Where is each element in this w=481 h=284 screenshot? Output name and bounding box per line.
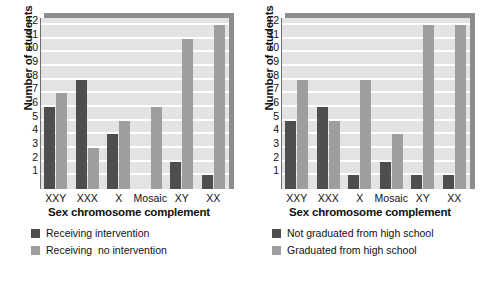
bar-group bbox=[170, 18, 193, 189]
legend-swatch-icon bbox=[272, 229, 281, 238]
y-tick-label: 5 bbox=[32, 111, 38, 121]
legend-swatch-icon bbox=[31, 229, 40, 238]
y-tick-label: 10 bbox=[26, 42, 38, 52]
x-tick-label: Mosaic bbox=[134, 192, 167, 204]
legend-right: Not graduated from high school Graduated… bbox=[272, 228, 434, 262]
bar bbox=[56, 93, 67, 189]
bar-series-right bbox=[281, 18, 470, 189]
x-tick-label: XX bbox=[447, 192, 461, 204]
bar-group bbox=[317, 18, 340, 189]
bar bbox=[329, 121, 340, 189]
bar bbox=[285, 121, 296, 189]
x-tick-label: X bbox=[356, 192, 363, 204]
y-tick-label: 2 bbox=[32, 152, 38, 162]
plot-right-shadow bbox=[229, 13, 234, 189]
bar-group bbox=[202, 18, 225, 189]
legend-item: Graduated from high school bbox=[272, 245, 434, 256]
y-tick-label: 11 bbox=[27, 29, 38, 39]
bar bbox=[107, 134, 118, 189]
bar bbox=[423, 25, 434, 189]
y-axis-ticks-right: 123456789101112 bbox=[259, 18, 279, 189]
bar bbox=[392, 134, 403, 189]
y-axis-ticks-left: 123456789101112 bbox=[18, 18, 38, 189]
bar bbox=[170, 162, 181, 189]
legend-item: Receiving intervention bbox=[31, 228, 167, 239]
bar bbox=[443, 175, 454, 189]
y-tick-label: 6 bbox=[32, 97, 38, 107]
bar bbox=[348, 175, 359, 189]
bar bbox=[88, 148, 99, 189]
y-tick-label: 11 bbox=[268, 29, 279, 39]
y-tick-label: 1 bbox=[273, 165, 279, 175]
bar-group bbox=[107, 18, 130, 189]
x-axis-ticks-left: XXYXXXXMosaicXYXX bbox=[40, 192, 229, 206]
bar-group bbox=[76, 18, 99, 189]
y-tick-label: 3 bbox=[32, 138, 38, 148]
y-tick-label: 4 bbox=[273, 124, 279, 134]
x-tick-label: XY bbox=[175, 192, 189, 204]
legend-swatch-icon bbox=[272, 246, 281, 255]
bar bbox=[411, 175, 422, 189]
x-axis-title-left: Sex chromosome complement bbox=[24, 206, 234, 218]
y-tick-label: 4 bbox=[32, 124, 38, 134]
bar bbox=[202, 175, 213, 189]
bar-group bbox=[285, 18, 308, 189]
chart-panel-right: Number of students 123456789101112 XXYXX… bbox=[241, 0, 481, 284]
bar-series-left bbox=[40, 18, 229, 189]
x-tick-label: XY bbox=[416, 192, 430, 204]
bar bbox=[360, 80, 371, 189]
legend-item: Receiving no intervention bbox=[31, 245, 167, 256]
legend-left: Receiving intervention Receiving no inte… bbox=[31, 228, 167, 262]
x-tick-label: XX bbox=[206, 192, 220, 204]
x-tick-label: XXY bbox=[286, 192, 307, 204]
x-axis-ticks-right: XXYXXXXMosaicXYXX bbox=[281, 192, 470, 206]
x-tick-label: XXY bbox=[45, 192, 66, 204]
y-tick-label: 7 bbox=[32, 83, 38, 93]
y-tick-label: 1 bbox=[32, 165, 38, 175]
bar bbox=[214, 25, 225, 189]
y-tick-label: 10 bbox=[267, 42, 279, 52]
y-tick-label: 7 bbox=[273, 83, 279, 93]
y-tick-label: 9 bbox=[32, 56, 38, 66]
y-tick-label: 2 bbox=[273, 152, 279, 162]
legend-label: Graduated from high school bbox=[287, 245, 417, 256]
legend-swatch-icon bbox=[31, 246, 40, 255]
x-tick-label: XXX bbox=[77, 192, 98, 204]
bar-group bbox=[44, 18, 67, 189]
figure-two-panel-bar-charts: Number of students 123456789101112 XXYXX… bbox=[0, 0, 481, 284]
bar-group bbox=[139, 18, 162, 189]
y-tick-label: 5 bbox=[273, 111, 279, 121]
y-tick-label: 12 bbox=[26, 15, 38, 25]
y-tick-label: 8 bbox=[273, 70, 279, 80]
plot-area-right bbox=[281, 13, 475, 189]
bar bbox=[76, 80, 87, 189]
plot-area-left bbox=[40, 13, 234, 189]
legend-item: Not graduated from high school bbox=[272, 228, 434, 239]
legend-label: Not graduated from high school bbox=[287, 228, 434, 239]
legend-label: Receiving no intervention bbox=[46, 245, 167, 256]
plot-right-shadow bbox=[470, 13, 475, 189]
bar bbox=[119, 121, 130, 189]
x-tick-label: Mosaic bbox=[375, 192, 408, 204]
bar bbox=[455, 25, 466, 189]
bar bbox=[297, 80, 308, 189]
bar-group bbox=[443, 18, 466, 189]
x-tick-label: XXX bbox=[318, 192, 339, 204]
y-tick-label: 8 bbox=[32, 70, 38, 80]
y-tick-label: 3 bbox=[273, 138, 279, 148]
chart-panel-left: Number of students 123456789101112 XXYXX… bbox=[0, 0, 240, 284]
bar-group bbox=[348, 18, 371, 189]
bar bbox=[182, 39, 193, 189]
bar bbox=[151, 107, 162, 189]
bar bbox=[44, 107, 55, 189]
legend-label: Receiving intervention bbox=[46, 228, 149, 239]
y-tick-label: 9 bbox=[273, 56, 279, 66]
bar bbox=[317, 107, 328, 189]
y-tick-label: 12 bbox=[267, 15, 279, 25]
y-tick-label: 6 bbox=[273, 97, 279, 107]
x-tick-label: X bbox=[115, 192, 122, 204]
x-axis-title-right: Sex chromosome complement bbox=[265, 206, 475, 218]
bar-group bbox=[380, 18, 403, 189]
bar bbox=[380, 162, 391, 189]
bar-group bbox=[411, 18, 434, 189]
